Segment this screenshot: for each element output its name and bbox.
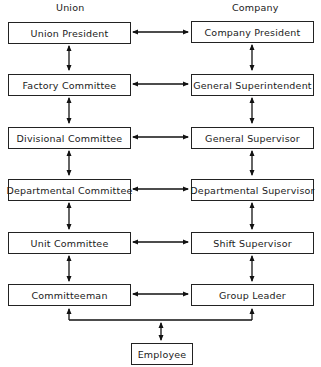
employee-box: Employee: [131, 343, 193, 365]
divisional-committee-box: Divisional Committee: [8, 127, 131, 149]
departmental-supervisor-box: Departmental Supervisor: [191, 179, 314, 201]
shift-supervisor-box: Shift Supervisor: [191, 232, 314, 254]
company-president-box: Company President: [191, 21, 314, 43]
unit-committee-box: Unit Committee: [8, 232, 131, 254]
union-president-box: Union President: [8, 22, 131, 44]
union-column-header: Union: [56, 2, 84, 13]
factory-committee-box: Factory Committee: [8, 74, 131, 96]
general-supervisor-box: General Supervisor: [191, 127, 314, 149]
company-column-header: Company: [232, 2, 279, 13]
general-superintendent-box: General Superintendent: [191, 74, 314, 96]
committeeman-box: Committeeman: [8, 284, 131, 306]
departmental-committee-box: Departmental Committee: [8, 179, 131, 201]
group-leader-box: Group Leader: [191, 284, 314, 306]
